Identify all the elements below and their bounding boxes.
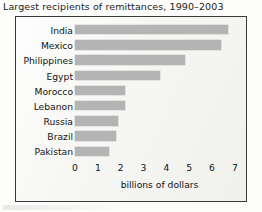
category-label-russia: Russia [16,117,73,126]
bar-india [75,25,228,34]
x-tick-label: 5 [186,163,192,172]
x-tick-label: 3 [141,163,147,172]
x-tick-label: 0 [72,163,78,172]
bar-track [75,23,244,38]
category-label-egypt: Egypt [16,72,73,81]
plot-area: India Mexico Philippines Egypt [15,16,247,202]
bar-mexico [75,40,221,49]
category-label-pakistan: Pakistan [16,147,73,156]
bar-row: Morocco [16,84,246,99]
x-tick-label: 2 [118,163,124,172]
category-label-philippines: Philippines [16,56,73,65]
bar-track [75,99,244,114]
bar-track [75,84,244,99]
bar-track [75,69,244,84]
x-tick-label: 1 [95,163,101,172]
bar-morocco [75,86,125,95]
bar-track [75,38,244,53]
bar-track [75,145,244,160]
x-tick-label: 7 [232,163,238,172]
bar-row: Philippines [16,53,246,68]
category-label-brazil: Brazil [16,132,73,141]
bar-row: Russia [16,114,246,129]
bar-egypt [75,71,160,80]
bar-track [75,114,244,129]
x-axis: 01234567 billions of dollars [16,163,246,202]
x-tick-label: 4 [163,163,169,172]
bar-russia [75,116,118,125]
category-label-morocco: Morocco [16,87,73,96]
chart-title: Largest recipients of remittances, 1990–… [3,1,224,12]
bar-series: India Mexico Philippines Egypt [16,23,246,161]
bar-row: Lebanon [16,99,246,114]
category-label-lebanon: Lebanon [16,102,73,111]
x-axis-label: billions of dollars [75,179,244,190]
bar-track [75,129,244,144]
page-edge-artifact [3,205,123,210]
bar-row: Mexico [16,38,246,53]
bar-row: Brazil [16,129,246,144]
x-tick-label: 6 [209,163,215,172]
bar-brazil [75,131,116,140]
chart-figure: Largest recipients of remittances, 1990–… [0,0,262,212]
x-axis-ticks: 01234567 [75,163,244,176]
bar-track [75,53,244,68]
bar-row: Pakistan [16,145,246,160]
bar-lebanon [75,101,125,110]
bar-row: India [16,23,246,38]
category-label-india: India [16,26,73,35]
bar-pakistan [75,147,109,156]
bar-philippines [75,55,185,64]
category-label-mexico: Mexico [16,41,73,50]
bar-row: Egypt [16,69,246,84]
